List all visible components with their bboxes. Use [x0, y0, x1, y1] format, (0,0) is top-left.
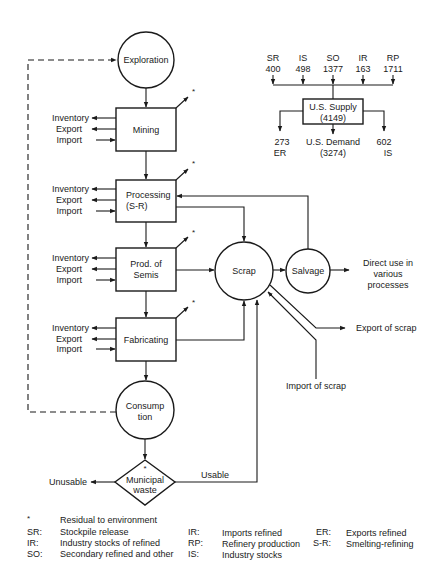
residual-marker: * — [192, 298, 195, 307]
supply-input-code: IR — [359, 53, 369, 63]
legend-text: Exports refined — [346, 528, 407, 538]
residual-marker: * — [192, 87, 195, 96]
supply-box-value: (4149) — [320, 113, 346, 123]
node-processing-label: Processing — [126, 190, 171, 200]
supply-is-value: 602 — [376, 137, 391, 147]
node-exploration-label: Exploration — [123, 55, 168, 65]
residual-arrow-icon — [176, 169, 188, 180]
import-label: Import — [56, 275, 82, 285]
supply-input-code: IS — [299, 53, 308, 63]
side-flows-processing: Inventory Export Import — [52, 184, 116, 216]
legend-key: SR: — [27, 527, 42, 537]
legend-key: ER: — [316, 527, 331, 537]
legend-key: IR: — [27, 538, 39, 548]
side-flows-mining: Inventory Export Import — [52, 113, 116, 145]
node-scrap-label: Scrap — [232, 266, 256, 276]
supply-er-code: ER — [274, 148, 287, 158]
legend-key: * — [27, 514, 30, 523]
import-scrap-label: Import of scrap — [286, 381, 346, 391]
node-fabricating: Fabricating * — [116, 298, 195, 361]
node-scrap: Scrap — [215, 242, 273, 300]
supply-input-value: 498 — [295, 64, 310, 74]
arrow-supply-is — [363, 111, 384, 131]
node-semis-label: Prod. of — [130, 259, 162, 269]
inventory-label: Inventory — [52, 184, 90, 194]
legend-key: SO: — [27, 549, 43, 559]
export-label: Export — [56, 334, 83, 344]
export-scrap-label: Export of scrap — [356, 323, 417, 333]
legend-text: Stockpile release — [60, 527, 129, 537]
supply-is-code: IS — [384, 148, 393, 158]
import-label: Import — [56, 135, 82, 145]
residual-marker: * — [192, 159, 195, 168]
supply-inputs: SR 400 IS 498 SO 1377 IR 163 RP 1711 — [265, 53, 402, 99]
supply-er-value: 273 — [274, 137, 289, 147]
arrow-salvage-processing — [177, 196, 308, 249]
node-mining-label: Mining — [133, 125, 160, 135]
legend-text: Imports refined — [222, 528, 282, 538]
node-prod-of-semis: Prod. of Semis * — [116, 228, 195, 291]
node-waste-sublabel: waste — [132, 485, 157, 495]
supply-input-code: RP — [387, 53, 400, 63]
supply-input-value: 1377 — [323, 64, 343, 74]
side-flows-fabricating: Inventory Export Import — [52, 323, 116, 354]
node-semis-sublabel: Semis — [133, 270, 159, 280]
arrow-processing-scrap — [176, 207, 244, 241]
arrow-usable-scrap — [175, 300, 257, 482]
usable-label: Usable — [201, 470, 229, 480]
residual-marker: * — [192, 228, 195, 237]
supply-input-code: SO — [326, 53, 339, 63]
legend: * Residual to environment SR: Stockpile … — [27, 514, 414, 560]
node-waste-label: Municipal — [126, 475, 164, 485]
direct-use-label-2: various — [373, 269, 403, 279]
legend-key: IR: — [188, 527, 200, 537]
side-flows-semis: Inventory Export Import — [52, 253, 116, 285]
export-label: Export — [56, 124, 83, 134]
supply-box-label: U.S. Supply — [309, 102, 357, 112]
node-processing: Processing (S-R) * — [116, 159, 195, 222]
arrow-supply-er — [280, 111, 303, 131]
legend-key: RP: — [188, 538, 203, 548]
node-mining: Mining * — [116, 87, 195, 151]
supply-input-code: SR — [267, 53, 280, 63]
legend-key: S-R: — [313, 538, 331, 548]
inventory-label: Inventory — [52, 253, 90, 263]
legend-text: Industry stocks — [222, 550, 283, 560]
residual-arrow-icon — [176, 237, 188, 248]
inventory-label: Inventory — [52, 323, 90, 333]
import-label: Import — [56, 344, 82, 354]
node-consumption: Consump tion — [116, 381, 174, 439]
node-fabricating-label: Fabricating — [124, 335, 169, 345]
node-consumption-sublabel: tion — [138, 412, 153, 422]
supply-box: U.S. Supply (4149) — [303, 99, 363, 124]
legend-key: IS: — [188, 549, 199, 559]
export-label: Export — [56, 264, 83, 274]
materials-flow-diagram: Exploration Mining * Processing (S-R) * … — [0, 0, 442, 580]
export-label: Export — [56, 195, 83, 205]
legend-text: Refinery production — [222, 539, 300, 549]
demand-label: U.S. Demand — [306, 137, 360, 147]
node-municipal-waste: * Municipal waste — [115, 460, 175, 505]
node-processing-sublabel: (S-R) — [126, 201, 148, 211]
legend-text: Smelting-refining — [346, 539, 414, 549]
arrow-fabricating-scrap — [176, 301, 244, 340]
node-salvage-label: Salvage — [292, 266, 325, 276]
node-salvage: Salvage — [286, 249, 330, 293]
supply-input-value: 163 — [355, 64, 370, 74]
supply-input-value: 1711 — [383, 64, 402, 74]
unusable-label: Unusable — [49, 477, 87, 487]
legend-text: Industry stocks of refined — [60, 538, 160, 548]
import-label: Import — [56, 206, 82, 216]
direct-use-label: Direct use in — [363, 258, 413, 268]
legend-text: Residual to environment — [60, 515, 158, 525]
residual-arrow-icon — [176, 307, 188, 318]
node-consumption-label: Consump — [126, 401, 165, 411]
demand-value: (3274) — [320, 148, 346, 158]
legend-text: Secondary refined and other — [60, 549, 174, 559]
residual-arrow-icon — [176, 97, 188, 108]
direct-use-label-3: processes — [367, 280, 409, 290]
node-exploration: Exploration — [118, 32, 174, 88]
supply-input-value: 400 — [265, 64, 280, 74]
inventory-label: Inventory — [52, 113, 90, 123]
residual-marker: * — [143, 464, 146, 473]
